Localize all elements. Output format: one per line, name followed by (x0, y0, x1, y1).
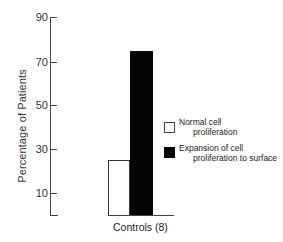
legend-label-expansion: Expansion of cell proliferation to surfa… (179, 143, 277, 163)
y-tick-label: 90 (26, 11, 48, 23)
y-tick-label: 50 (26, 99, 48, 111)
legend-line: proliferation (179, 127, 237, 137)
legend-line: Expansion of cell (179, 143, 277, 153)
bar-expansion-to-surface (130, 51, 153, 216)
bar-normal-cell-proliferation (108, 160, 130, 216)
y-tick-50 (50, 105, 57, 106)
y-axis-bottom-tick (50, 215, 58, 216)
y-tick-10 (50, 193, 57, 194)
legend-swatch-white (164, 122, 175, 133)
x-category-label: Controls (8) (113, 221, 168, 233)
y-tick-label: 70 (26, 56, 48, 68)
y-tick-label: 10 (26, 187, 48, 199)
legend-label-normal: Normal cell proliferation (179, 117, 237, 137)
legend-swatch-black (164, 147, 175, 158)
y-tick-70 (50, 62, 57, 63)
legend-line: proliferation to surface (179, 153, 277, 163)
y-axis-line (50, 17, 51, 216)
legend-line: Normal cell (179, 117, 237, 127)
y-tick-label: 30 (26, 143, 48, 155)
y-axis-label: Percentage of Patients (16, 66, 28, 186)
y-tick-90 (50, 17, 57, 18)
y-tick-30 (50, 149, 57, 150)
x-baseline (108, 215, 174, 216)
